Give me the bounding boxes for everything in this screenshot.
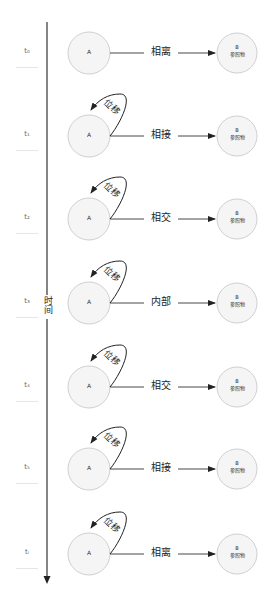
- time-label: t₃: [12, 297, 42, 305]
- time-label-underline: [16, 483, 38, 484]
- relation-label: 相交: [144, 380, 178, 392]
- reference-b-subtitle: 参照物: [222, 134, 252, 141]
- reference-b-name: B: [222, 294, 252, 301]
- time-label: t₄: [12, 381, 42, 389]
- reference-b-name: B: [222, 127, 252, 134]
- object-a-label: A: [79, 131, 99, 138]
- object-a-label: A: [79, 464, 99, 471]
- reference-b-label: B参照物: [222, 294, 252, 308]
- reference-b-label: B参照物: [222, 545, 252, 559]
- reference-b-name: B: [222, 210, 252, 217]
- time-axis-label: 时间: [41, 296, 53, 314]
- reference-b-name: B: [222, 545, 252, 552]
- relation-label: 相接: [144, 462, 178, 474]
- time-label-underline: [16, 67, 38, 68]
- relation-label: 相接: [144, 129, 178, 141]
- reference-b-subtitle: 参照物: [222, 217, 252, 224]
- time-step-row: [68, 94, 257, 157]
- time-label-underline: [16, 317, 38, 318]
- relation-label: 相离: [144, 46, 178, 58]
- relation-label: 相交: [144, 212, 178, 224]
- time-step-row: [68, 345, 257, 408]
- reference-b-name: B: [222, 378, 252, 385]
- object-a-label: A: [79, 298, 99, 305]
- relation-label: 内部: [144, 296, 178, 308]
- reference-b-name: B: [222, 460, 252, 467]
- reference-b-subtitle: 参照物: [222, 467, 252, 474]
- reference-b-label: B参照物: [222, 460, 252, 474]
- time-label: tᵢ: [12, 548, 42, 556]
- time-step-row: [68, 261, 257, 324]
- reference-b-label: B参照物: [222, 210, 252, 224]
- time-label: t₁: [12, 130, 42, 138]
- reference-b-subtitle: 参照物: [222, 51, 252, 58]
- relation-label: 相离: [144, 547, 178, 559]
- time-label: t₂: [12, 213, 42, 221]
- object-a-label: A: [79, 382, 99, 389]
- time-label-underline: [16, 233, 38, 234]
- time-step-row: [68, 427, 257, 490]
- time-label: t₀: [12, 47, 42, 55]
- reference-b-label: B参照物: [222, 44, 252, 58]
- time-label: t₅: [12, 463, 42, 471]
- reference-b-label: B参照物: [222, 127, 252, 141]
- time-step-row: [68, 512, 257, 575]
- reference-b-subtitle: 参照物: [222, 301, 252, 308]
- time-label-underline: [16, 401, 38, 402]
- time-label-underline: [16, 150, 38, 151]
- reference-b-name: B: [222, 44, 252, 51]
- time-step-row: [68, 177, 257, 240]
- object-a-label: A: [79, 214, 99, 221]
- object-a-label: A: [79, 549, 99, 556]
- time-axis-arrowhead: [44, 576, 51, 584]
- object-a-label: A: [79, 48, 99, 55]
- time-label-underline: [16, 568, 38, 569]
- reference-b-subtitle: 参照物: [222, 552, 252, 559]
- reference-b-label: B参照物: [222, 378, 252, 392]
- reference-b-subtitle: 参照物: [222, 385, 252, 392]
